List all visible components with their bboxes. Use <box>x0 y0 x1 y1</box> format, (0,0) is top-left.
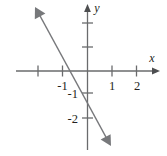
x-axis-arrowhead-icon <box>152 68 160 75</box>
y-axis-label: y <box>93 1 100 15</box>
x-tick-label-minus1: -1 <box>57 79 67 93</box>
coordinate-plane-figure: -1 1 2 -1 -2 x y <box>0 0 167 156</box>
y-tick-label-minus2: -2 <box>68 112 78 126</box>
y-axis-arrowhead-icon <box>84 4 91 12</box>
x-tick-label-1: 1 <box>109 79 115 93</box>
y-axis <box>82 4 93 150</box>
y-tick-label-minus1: -1 <box>68 87 78 101</box>
graph-canvas: -1 1 2 -1 -2 x y <box>0 0 167 156</box>
x-axis-label: x <box>148 51 155 65</box>
x-tick-label-2: 2 <box>134 79 140 93</box>
